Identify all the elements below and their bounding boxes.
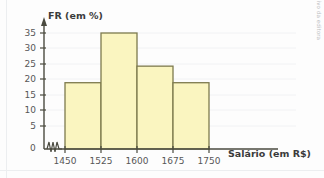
axis-break-zigzag-icon: [47, 142, 62, 152]
y-axis-title: FR (em %): [48, 10, 103, 21]
x-tick-label: 1600: [120, 156, 154, 166]
y-tick-label: 35: [20, 28, 36, 38]
histogram-bar: [65, 83, 101, 149]
histogram-plot-area: 35 30 25 20 15 10 5 0 1450 1525 1600 167…: [0, 0, 324, 178]
bars-group: [65, 33, 209, 149]
histogram-bar: [173, 83, 209, 149]
y-axis-arrow-icon: [41, 17, 47, 26]
x-tick-label: 1450: [48, 156, 82, 166]
x-tick-label: 1675: [156, 156, 190, 166]
y-tick-label-zero: 0: [30, 143, 36, 153]
y-tick-marks: [40, 33, 46, 126]
y-tick-label: 15: [20, 90, 36, 100]
y-tick-label: 5: [20, 121, 36, 131]
y-tick-label: 30: [20, 43, 36, 53]
histogram-bar: [137, 66, 173, 149]
chart-figure: 35 30 25 20 15 10 5 0 1450 1525 1600 167…: [0, 0, 324, 178]
histogram-bar: [101, 33, 137, 149]
y-tick-label: 10: [20, 105, 36, 115]
x-tick-label: 1525: [84, 156, 118, 166]
x-axis-title: Salário (em R$): [228, 148, 311, 159]
y-tick-label: 20: [20, 74, 36, 84]
image-credit: Banco de imagens/Arquivo da editora: [316, 0, 322, 40]
x-tick-label: 1750: [192, 156, 226, 166]
y-tick-label: 25: [20, 59, 36, 69]
